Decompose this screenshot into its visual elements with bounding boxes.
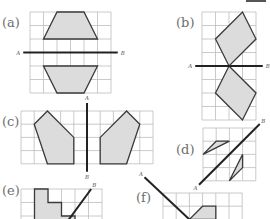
shape-c-1 [34,111,74,164]
shape-c-2 [100,111,140,164]
panel-label-c: (c) [2,115,19,128]
mirror-label-start-d: A [193,185,198,191]
mirror-label-end-a: B [120,50,125,56]
mirror-label-end-d: B [260,118,265,124]
mirror-label-start-b: A [187,63,192,69]
panel-e: B [21,182,102,219]
panel-label-d: (d) [176,143,194,156]
panel-b: AB [187,12,270,120]
panel-f: A [138,171,242,219]
mirror-label-start-f: A [138,171,143,177]
panel-label-b: (b) [176,16,194,29]
corner-marker [246,0,266,2]
shape-a-1 [44,12,98,39]
shape-b-2 [216,66,257,120]
mirror-line-f [145,177,190,219]
shape-b-1 [216,12,257,66]
shape-a-2 [44,66,98,93]
panel-label-e: (e) [2,184,20,197]
shape-f-1 [189,206,215,219]
panel-c: AB [21,95,153,180]
mirror-label-end-c: B [84,174,89,180]
panel-label-f: (f) [136,191,151,204]
figure-canvas: ABABABABBA [0,0,270,219]
mirror-label-start-c: A [84,95,89,101]
panel-label-a: (a) [2,16,20,29]
panel-d: AB [193,118,266,192]
mirror-label-end-e: B [91,182,96,188]
panel-a: AB [15,12,125,93]
mirror-label-start-a: A [15,50,20,56]
mirror-line-e [62,189,92,219]
shape-e-1 [35,189,76,219]
mirror-label-end-b: B [265,63,270,69]
